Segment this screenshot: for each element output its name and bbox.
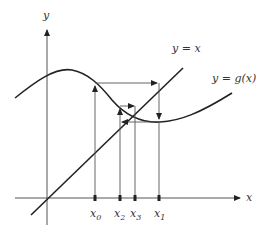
tick-labels: x0 x2 x3 x1 [90, 207, 165, 222]
axes [15, 30, 240, 225]
tick-label-x1: x1 [154, 207, 165, 222]
g-curve-label: y = g(x) [211, 72, 256, 85]
tick-label-x3: x3 [130, 207, 141, 222]
x-axis-label: x [246, 191, 253, 204]
tick-label-x0: x0 [90, 207, 101, 222]
y-axis-label: y [42, 9, 50, 22]
tick-label-x2: x2 [114, 207, 125, 222]
identity-line-label: y = x [171, 42, 201, 55]
g-curve [15, 70, 232, 122]
identity-line [31, 68, 183, 215]
cobweb-diagram: y x y = x y = g(x) x0 x2 x3 x1 [0, 0, 260, 230]
